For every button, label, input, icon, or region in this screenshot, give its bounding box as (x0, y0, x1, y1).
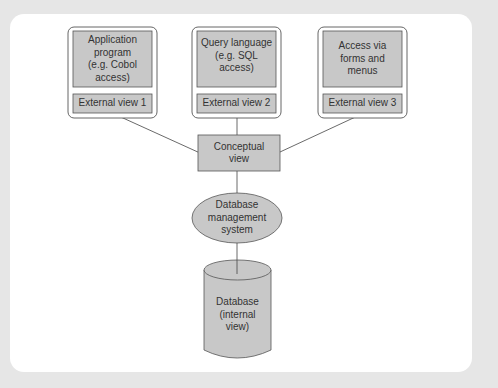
label-line: menus (347, 65, 377, 78)
program-label-3: Access via forms and menus (323, 31, 402, 87)
label-line: view (229, 153, 249, 166)
external-view-label-3: External view 3 (323, 94, 402, 113)
label-line: Query language (201, 37, 272, 50)
database-cylinder-top (204, 260, 271, 280)
label-line: Application (88, 34, 137, 47)
label-line: (e.g. Cobol (88, 59, 137, 72)
label-line: view) (226, 321, 249, 334)
label-line: (internal (219, 309, 255, 322)
external-view-label-2: External view 2 (197, 94, 276, 113)
label-line: Access via (339, 40, 387, 53)
label-line: (e.g. SQL (215, 50, 258, 63)
connector-ev3-conceptual (280, 113, 364, 152)
label-line: access) (95, 72, 129, 85)
label-line: management (208, 212, 266, 225)
dbms-label: Database management system (192, 193, 282, 243)
label-line: Database (216, 199, 259, 212)
label-line: access) (219, 62, 253, 75)
database-label: Database (internal view) (204, 290, 271, 340)
label-line: Database (216, 296, 259, 309)
label-line: program (94, 47, 131, 60)
label-line: Conceptual (214, 141, 265, 154)
program-label-1: Application program (e.g. Cobol access) (73, 31, 152, 87)
conceptual-view-label: Conceptual view (198, 135, 280, 171)
external-view-label-1: External view 1 (73, 94, 152, 113)
label-line: forms and (340, 53, 384, 66)
connector-ev1-conceptual (112, 113, 200, 153)
label-line: system (221, 224, 253, 237)
program-label-2: Query language (e.g. SQL access) (197, 31, 276, 81)
